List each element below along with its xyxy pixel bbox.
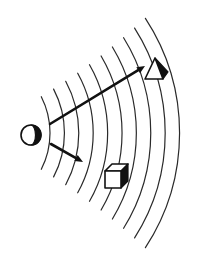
wavefront-arc xyxy=(135,28,166,238)
wave-diagram xyxy=(0,0,197,261)
wavefront-arc xyxy=(124,38,151,229)
wave-source-icon xyxy=(21,125,41,145)
wavefront-arc xyxy=(54,89,65,177)
wavefront-arc xyxy=(78,73,93,193)
wavefront-arc xyxy=(41,97,50,170)
long-arrow xyxy=(50,66,145,124)
wavefront-arc xyxy=(66,81,79,184)
wavefront-arcs xyxy=(41,18,179,247)
triangular-prism-icon xyxy=(145,58,168,79)
cube-icon xyxy=(105,164,128,188)
